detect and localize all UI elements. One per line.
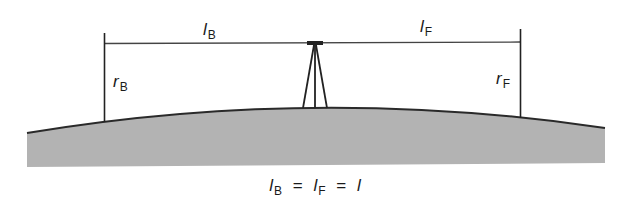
level-instrument-icon [307, 41, 323, 45]
distance-equality-formula: lB = lF = l [0, 176, 630, 196]
label-back-reading: rB [113, 73, 128, 90]
leveling-diagram [0, 0, 630, 201]
tripod-icon [303, 45, 327, 108]
label-fore-distance: lF [420, 18, 432, 35]
label-back-distance: lB [203, 21, 216, 38]
label-fore-reading: rF [496, 70, 510, 87]
